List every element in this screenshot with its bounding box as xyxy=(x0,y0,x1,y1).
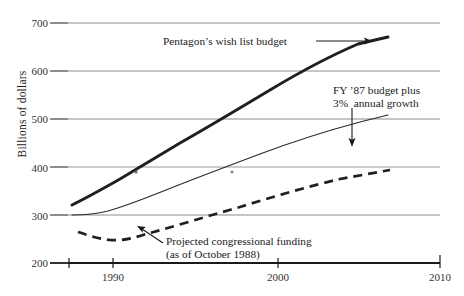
chart-svg xyxy=(0,0,464,296)
y-tick-marks xyxy=(50,23,68,263)
chart-root: Billions of dollars 700 600 500 400 300 … xyxy=(0,0,464,296)
gridlines xyxy=(68,23,440,215)
x-axis xyxy=(68,255,440,268)
fy87-annotation-arrow xyxy=(349,108,356,147)
series-fy87-plus-3pct xyxy=(72,115,388,215)
data-point-markers xyxy=(134,170,233,173)
